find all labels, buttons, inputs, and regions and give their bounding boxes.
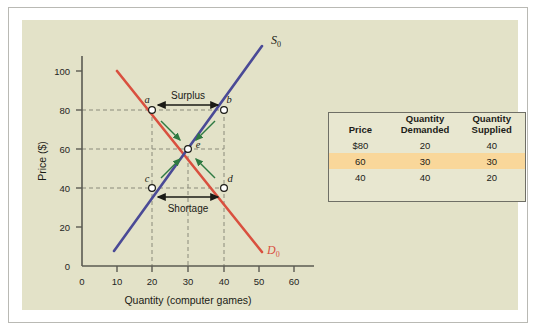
cell-price: 40 bbox=[329, 169, 392, 185]
y-tick-label-60: 60 bbox=[59, 144, 70, 155]
x-axis-title: Quantity (computer games) bbox=[124, 294, 251, 306]
quantity-schedule-table: Price Quantity Demanded Quantity Supplie… bbox=[329, 113, 525, 185]
cell-quantity-supplied: 20 bbox=[458, 169, 525, 185]
y-tick-label-20: 20 bbox=[59, 222, 70, 233]
x-axis-ticks bbox=[117, 266, 294, 272]
point-marker-e bbox=[185, 146, 192, 153]
point-label-a: a bbox=[144, 94, 149, 105]
column-header-price-text: Price bbox=[331, 125, 390, 136]
shortage-label: Shortage bbox=[168, 203, 209, 214]
table-row: $80 20 40 bbox=[329, 137, 525, 153]
cell-price: 60 bbox=[329, 153, 392, 169]
point-label-b: b bbox=[226, 94, 231, 105]
x-tick-label-10: 10 bbox=[112, 276, 123, 287]
column-header-quantity-demanded: Quantity Demanded bbox=[392, 113, 459, 137]
x-tick-label-0: 0 bbox=[79, 276, 84, 287]
x-tick-label-20: 20 bbox=[147, 276, 158, 287]
page-root: 100 80 60 40 20 0 0 10 20 30 40 50 60 Qu… bbox=[0, 0, 540, 334]
cell-price: $80 bbox=[329, 137, 392, 153]
figure-panel: 100 80 60 40 20 0 0 10 20 30 40 50 60 Qu… bbox=[22, 20, 518, 310]
y-tick-label-0: 0 bbox=[65, 261, 70, 272]
column-header-qd-line2: Demanded bbox=[394, 125, 457, 136]
point-marker-a bbox=[149, 107, 156, 114]
y-tick-label-80: 80 bbox=[59, 105, 70, 116]
table-row: 60 30 30 bbox=[329, 153, 525, 169]
cell-quantity-demanded: 40 bbox=[392, 169, 459, 185]
point-label-c: c bbox=[145, 173, 150, 184]
demand-curve-label: D0 bbox=[266, 243, 280, 259]
y-axis-title: Price ($) bbox=[36, 141, 48, 181]
table-header: Price Quantity Demanded Quantity Supplie… bbox=[329, 113, 525, 137]
x-tick-label-30: 30 bbox=[183, 276, 194, 287]
cell-quantity-supplied: 30 bbox=[458, 153, 525, 169]
x-tick-label-40: 40 bbox=[219, 276, 230, 287]
table-body: $80 20 40 60 30 30 40 40 20 bbox=[329, 137, 525, 185]
supply-curve-label: S0 bbox=[271, 33, 281, 49]
point-marker-c bbox=[149, 185, 156, 192]
point-marker-b bbox=[221, 107, 228, 114]
point-label-e: e bbox=[196, 139, 201, 150]
convergence-arrow-bottom-left bbox=[161, 159, 180, 178]
y-tick-label-100: 100 bbox=[54, 66, 70, 77]
point-label-d: d bbox=[227, 173, 233, 184]
quantity-schedule-table-container: Price Quantity Demanded Quantity Supplie… bbox=[328, 112, 526, 202]
column-header-quantity-supplied: Quantity Supplied bbox=[458, 113, 525, 137]
table-row: 40 40 20 bbox=[329, 169, 525, 185]
point-marker-d bbox=[221, 185, 228, 192]
cell-quantity-demanded: 20 bbox=[392, 137, 459, 153]
x-tick-label-50: 50 bbox=[254, 276, 265, 287]
y-axis-ticks bbox=[76, 71, 82, 227]
surplus-label: Surplus bbox=[171, 90, 205, 101]
x-tick-label-60: 60 bbox=[289, 276, 300, 287]
table-header-row: Price Quantity Demanded Quantity Supplie… bbox=[329, 113, 525, 137]
cell-quantity-demanded: 30 bbox=[392, 153, 459, 169]
column-header-price: Price bbox=[329, 113, 392, 137]
y-tick-label-40: 40 bbox=[59, 183, 70, 194]
column-header-qs-line2: Supplied bbox=[460, 125, 523, 136]
cell-quantity-supplied: 40 bbox=[458, 137, 525, 153]
